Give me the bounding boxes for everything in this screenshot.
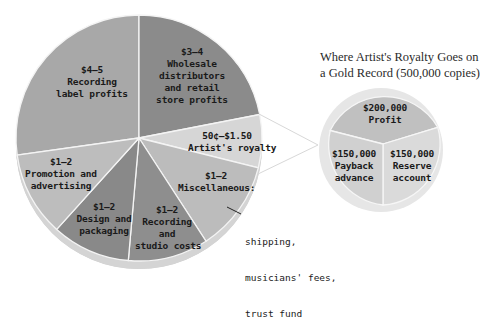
misc-note: shipping, musicians' fees, trust fund [245,212,337,321]
label-miscellaneous: $1–2 Miscellaneous: [178,170,254,194]
label-artist-royalty: 50¢–$1.50 Artist's royalty [188,130,266,154]
label-payback-advance: $150,000 Payback advance [326,148,382,184]
label-studio-costs: $1–2 Recording and studio costs [135,204,199,252]
label-profit: $200,000 Profit [352,102,418,126]
label-reserve-account: $150,000 Reserve account [384,148,440,184]
label-recording-label-profits: $4–5 Recording label profits [52,64,132,100]
detail-title: Where Artist's Royalty Goes on a Gold Re… [320,49,480,81]
value: $4–5 [52,64,132,76]
label-promotion: $1–2 Promotion and advertising [22,156,100,192]
label-wholesale: $3–4 Wholesale distributors and retail s… [152,46,232,106]
label-design-packaging: $1–2 Design and packaging [76,201,132,237]
